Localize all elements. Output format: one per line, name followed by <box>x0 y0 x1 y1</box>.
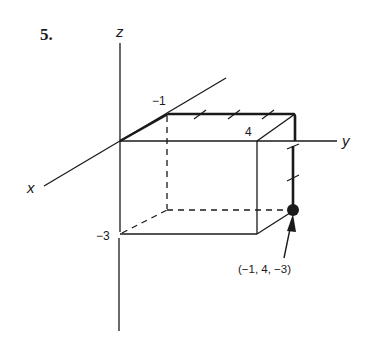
point-arrow <box>284 214 296 258</box>
z-axis-label: z <box>115 23 124 40</box>
point-label: (−1, 4, −3) <box>238 263 291 275</box>
box-right-back-edge <box>287 144 299 210</box>
box-front-face <box>120 141 257 234</box>
x-tick-label: −1 <box>152 94 166 108</box>
z-axis: z <box>115 23 124 331</box>
problem-number: 5. <box>40 25 53 44</box>
z-tick-label: −3 <box>96 229 110 243</box>
y-axis: y <box>120 132 351 149</box>
y-tick-label: 4 <box>245 125 252 139</box>
x-axis: x <box>26 78 226 196</box>
box-hidden-edges <box>122 116 290 233</box>
box-top-back-edge <box>168 110 295 141</box>
y-axis-label: y <box>341 132 351 149</box>
coordinate-box-diagram: 5. z x y <box>0 0 371 355</box>
x-axis-label: x <box>26 179 35 196</box>
